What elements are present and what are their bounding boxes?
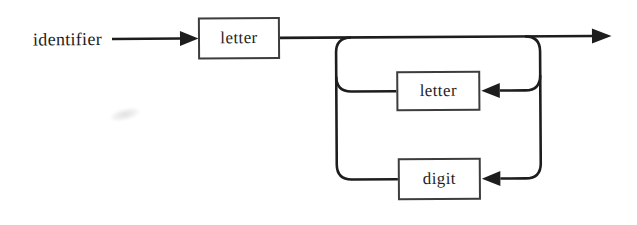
digit-loop-arrowhead-icon bbox=[482, 171, 501, 186]
letter-loop-arrowhead-icon bbox=[481, 83, 500, 98]
letter-start-node: letter bbox=[198, 17, 280, 60]
loop-left-rail bbox=[336, 37, 398, 179]
main-line bbox=[280, 36, 593, 38]
letter-loop-node-label: letter bbox=[420, 81, 457, 101]
letter-loop-node: letter bbox=[396, 71, 480, 112]
syntax-diagram-canvas: identifier letter letter digit bbox=[0, 0, 637, 225]
loop-left-letter-branch bbox=[336, 76, 396, 91]
entry-label: identifier bbox=[33, 29, 102, 50]
letter-start-node-label: letter bbox=[220, 28, 257, 48]
railroad-diagram: identifier letter letter digit bbox=[0, 0, 637, 225]
digit-loop-node-label: digit bbox=[423, 169, 456, 189]
exit-arrowhead-icon bbox=[592, 28, 612, 43]
digit-loop-node: digit bbox=[398, 158, 481, 201]
loop-right-rail bbox=[499, 36, 540, 178]
entry-arrowhead-icon bbox=[180, 31, 199, 46]
loop-right-letter-branch bbox=[500, 75, 541, 90]
